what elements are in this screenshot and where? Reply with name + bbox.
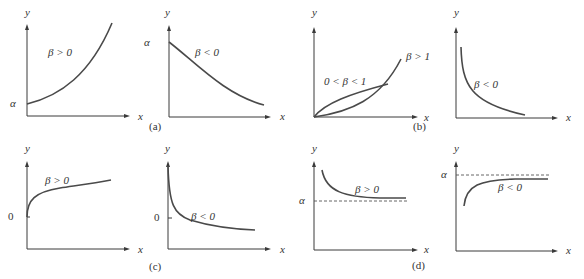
- y-label: y: [453, 6, 459, 18]
- y-label: y: [24, 6, 30, 18]
- curve-label-beta-gt-1: β > 1: [405, 50, 430, 62]
- x-axis-arrow-icon: [124, 247, 130, 251]
- curve-label: β > 0: [47, 46, 72, 58]
- x-label: x: [565, 111, 571, 123]
- exponential-growth-curve: [27, 23, 112, 104]
- y-axis-arrow-icon: [454, 27, 458, 33]
- y-axis-arrow-icon: [25, 24, 29, 30]
- curve-label: β > 0: [354, 183, 379, 195]
- x-label: x: [279, 243, 285, 255]
- y-label: y: [311, 142, 317, 154]
- power-curve-beta-gt-1: [314, 59, 401, 117]
- asymptote-label: α: [441, 168, 447, 180]
- x-axis-arrow-icon: [412, 115, 418, 119]
- curve-label: β > 0: [44, 174, 69, 186]
- x-axis-arrow-icon: [412, 248, 418, 252]
- intercept-label: α: [10, 97, 16, 109]
- caption-b: (b): [413, 120, 426, 133]
- x-label: x: [137, 110, 143, 122]
- power-curve-beta-0-1: [314, 84, 388, 117]
- panel-b1: y x β > 1 0 < β < 1 (b): [311, 6, 430, 133]
- x-axis-arrow-icon: [552, 116, 558, 120]
- panel-c1: y x 0 β > 0: [8, 142, 143, 255]
- curve-label: β < 0: [473, 78, 498, 90]
- caption-a: (a): [149, 120, 162, 133]
- y-axis-arrow-icon: [312, 27, 316, 33]
- log-growth-curve: [27, 180, 111, 217]
- curve-label: β < 0: [194, 46, 219, 58]
- y-axis-arrow-icon: [167, 25, 171, 31]
- function-shapes-figure: y x α β > 0 y x α β < 0 (a) y x β > 1 0 …: [0, 0, 584, 279]
- x-axis-arrow-icon: [552, 249, 558, 253]
- caption-c: (c): [149, 260, 162, 273]
- x-axis-arrow-icon: [265, 115, 271, 119]
- intercept-label: 0: [154, 211, 160, 223]
- y-label: y: [164, 6, 170, 18]
- panel-c2: y x 0 β < 0 (c): [149, 142, 285, 273]
- asymptote-label: α: [299, 194, 305, 206]
- x-label: x: [279, 110, 285, 122]
- curve-label: β < 0: [497, 181, 522, 193]
- y-axis-arrow-icon: [454, 161, 458, 167]
- y-label: y: [24, 142, 30, 154]
- y-axis-arrow-icon: [25, 161, 29, 167]
- curve-label: β < 0: [190, 210, 215, 222]
- panel-d1: y x α β > 0 (d): [299, 142, 429, 272]
- y-label: y: [164, 142, 170, 154]
- y-label: y: [311, 6, 317, 18]
- y-label: y: [453, 142, 459, 154]
- intercept-label: 0: [8, 210, 14, 222]
- caption-d: (d): [412, 259, 425, 272]
- panel-a2: y x α β < 0 (a): [144, 6, 285, 133]
- x-label: x: [565, 244, 571, 256]
- x-axis-arrow-icon: [124, 114, 130, 118]
- panel-a1: y x α β > 0: [10, 6, 143, 122]
- x-axis-arrow-icon: [265, 247, 271, 251]
- y-axis-arrow-icon: [312, 161, 316, 167]
- x-label: x: [423, 243, 429, 255]
- panel-d2: y x α β < 0: [441, 142, 571, 256]
- x-label: x: [137, 243, 143, 255]
- curve-label-beta-0-1: 0 < β < 1: [324, 75, 366, 87]
- intercept-label: α: [144, 36, 150, 48]
- panel-b2: y x β < 0: [453, 6, 571, 123]
